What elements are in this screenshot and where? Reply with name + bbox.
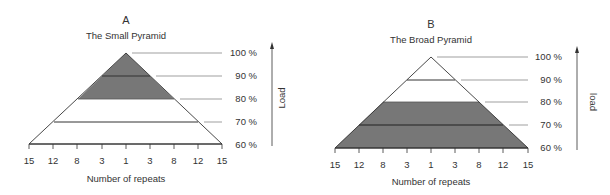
level-label: 100 %	[230, 47, 257, 58]
panel-letter: B	[427, 18, 434, 30]
level-label: 90 %	[540, 74, 562, 85]
level-label: 60 %	[540, 142, 562, 153]
x-tick: 3	[99, 155, 104, 166]
x-tick: 15	[523, 159, 534, 170]
arrow-head-icon	[270, 42, 274, 49]
x-tick: 12	[354, 159, 365, 170]
level-label: 60 %	[235, 139, 257, 150]
x-tick: 8	[380, 159, 385, 170]
x-tick: 8	[476, 159, 481, 170]
x-tick: 12	[193, 155, 204, 166]
x-tick: 15	[217, 155, 228, 166]
level-label: 70 %	[540, 119, 562, 130]
x-tick: 12	[498, 159, 509, 170]
arrow-head-icon	[575, 46, 579, 53]
panel-letter: A	[122, 14, 130, 26]
x-tick: 8	[74, 155, 79, 166]
level-label: 70 %	[235, 116, 257, 127]
x-tick: 15	[330, 159, 341, 170]
x-tick: 3	[404, 159, 409, 170]
panel-title: The Broad Pyramid	[390, 34, 472, 45]
x-tick: 3	[452, 159, 457, 170]
level-label: 80 %	[540, 96, 562, 107]
panel-b: B The Broad Pyramid 100 % 90 % 80 % 70 %…	[330, 18, 599, 187]
x-axis-label: Number of repeats	[392, 176, 471, 187]
pyramid-diagram: A The Small Pyramid 100 % 90 % 80 % 70 %…	[0, 0, 610, 195]
level-label: 80 %	[235, 93, 257, 104]
x-tick: 8	[171, 155, 176, 166]
axis-label: Load	[276, 87, 287, 108]
level-label: 100 %	[535, 51, 562, 62]
x-tick: 1	[123, 155, 128, 166]
panel-title: The Small Pyramid	[86, 30, 166, 41]
x-tick: 12	[48, 155, 59, 166]
level-label: 90 %	[235, 70, 257, 81]
x-tick: 1	[428, 159, 433, 170]
x-tick: 15	[24, 155, 35, 166]
x-tick: 3	[147, 155, 152, 166]
axis-label: load	[588, 93, 599, 111]
x-axis-label: Number of repeats	[87, 173, 166, 184]
panel-a: A The Small Pyramid 100 % 90 % 80 % 70 %…	[24, 14, 287, 184]
